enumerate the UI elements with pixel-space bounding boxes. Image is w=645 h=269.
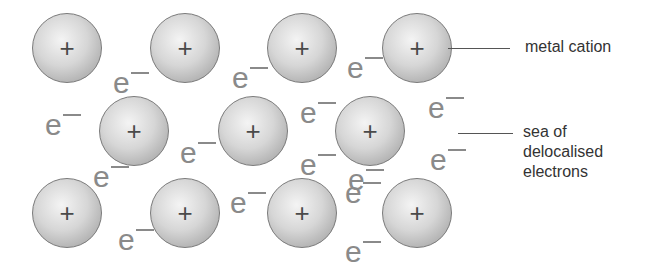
electron-symbol: e: [230, 188, 247, 218]
delocalised-electron: e: [428, 93, 464, 123]
minus-icon: [131, 72, 149, 74]
delocalised-electron: e: [300, 98, 336, 128]
metal-cation: +: [150, 13, 220, 83]
metal-cation: +: [335, 96, 405, 166]
electron-sea-leader-line: [458, 133, 513, 134]
plus-icon: +: [100, 118, 168, 144]
electron-symbol: e: [180, 138, 197, 168]
minus-icon: [248, 192, 266, 194]
electron-symbol: e: [45, 110, 62, 140]
metal-cation: +: [267, 178, 337, 248]
electron-sea-label-line1: sea of: [523, 122, 603, 142]
plus-icon: +: [336, 118, 404, 144]
metal-cation: +: [150, 178, 220, 248]
delocalised-electron: e: [93, 162, 129, 192]
metal-cation: +: [99, 96, 169, 166]
minus-icon: [446, 97, 464, 99]
delocalised-electron: e: [230, 188, 266, 218]
delocalised-electron: e: [118, 225, 154, 255]
metal-cation-label: metal cation: [525, 37, 611, 57]
plus-icon: +: [33, 200, 101, 226]
minus-icon: [63, 114, 81, 116]
minus-icon: [250, 67, 268, 69]
electron-symbol: e: [113, 68, 130, 98]
electron-symbol: e: [93, 162, 110, 192]
electron-symbol: e: [300, 98, 317, 128]
metal-cation: +: [382, 178, 452, 248]
electron-symbol: e: [345, 237, 362, 267]
electron-symbol: e: [118, 225, 135, 255]
delocalised-electron: e: [113, 68, 149, 98]
cation-leader-line: [448, 48, 510, 49]
minus-icon: [136, 229, 154, 231]
delocalised-electron: e: [232, 63, 268, 93]
metal-cation: +: [32, 178, 102, 248]
delocalised-electron: e: [345, 237, 381, 267]
minus-icon: [318, 102, 336, 104]
delocalised-electron: e: [345, 178, 381, 208]
plus-icon: +: [383, 35, 451, 61]
delocalised-electron: e: [180, 138, 216, 168]
minus-icon: [198, 142, 216, 144]
minus-icon: [365, 57, 383, 59]
metal-cation: +: [32, 13, 102, 83]
plus-icon: +: [383, 200, 451, 226]
plus-icon: +: [268, 200, 336, 226]
plus-icon: +: [219, 118, 287, 144]
electron-symbol: e: [300, 150, 317, 180]
metal-cation: +: [382, 13, 452, 83]
plus-icon: +: [33, 35, 101, 61]
delocalised-electron: e: [347, 53, 383, 83]
minus-icon: [448, 149, 466, 151]
metal-cation: +: [218, 96, 288, 166]
minus-icon: [111, 166, 129, 168]
electron-symbol: e: [232, 63, 249, 93]
delocalised-electron: e: [45, 110, 81, 140]
electron-sea-label-line2: delocalised: [523, 142, 603, 162]
electron-sea-label: sea of delocalised electrons: [523, 122, 603, 182]
electron-sea-label-line3: electrons: [523, 162, 603, 182]
minus-icon: [363, 241, 381, 243]
plus-icon: +: [268, 35, 336, 61]
plus-icon: +: [151, 35, 219, 61]
electron-symbol: e: [428, 93, 445, 123]
electron-symbol: e: [430, 145, 447, 175]
metal-cation: +: [267, 13, 337, 83]
delocalised-electron: e: [430, 145, 466, 175]
minus-icon: [363, 182, 381, 184]
minus-icon: [366, 169, 384, 171]
delocalised-electron: e: [300, 150, 336, 180]
electron-symbol: e: [347, 53, 364, 83]
minus-icon: [318, 154, 336, 156]
plus-icon: +: [151, 200, 219, 226]
electron-symbol: e: [345, 178, 362, 208]
